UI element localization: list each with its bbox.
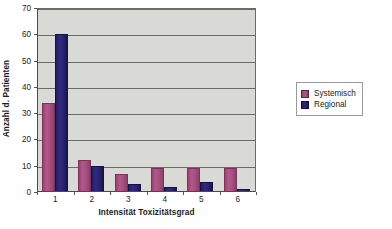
- legend-label: Regional: [314, 100, 346, 109]
- plot-area: [37, 8, 256, 192]
- bar-systemisch-3: [115, 174, 128, 192]
- x-tick-label: 1: [37, 195, 74, 208]
- y-axis-title: Anzahl d. Patienten: [0, 0, 14, 196]
- y-tick-mark: [34, 8, 37, 9]
- y-axis-tick-labels: 010203040506070: [14, 8, 34, 192]
- y-tick-label: 70: [22, 4, 31, 13]
- y-tick-mark: [34, 113, 37, 114]
- bar-group-3: [110, 9, 146, 192]
- y-tick-label: 40: [22, 82, 31, 91]
- y-axis-title-text: Anzahl d. Patienten: [3, 59, 12, 136]
- x-tick-label: 6: [220, 195, 257, 208]
- bar-systemisch-4: [151, 168, 164, 192]
- y-tick-label: 0: [26, 188, 31, 197]
- y-tick-label: 60: [22, 30, 31, 39]
- y-tick-mark: [34, 61, 37, 62]
- bars-layer: [37, 9, 255, 192]
- y-axis-line: [37, 9, 38, 192]
- legend: SystemischRegional: [296, 82, 363, 116]
- x-tick-label: 4: [147, 195, 184, 208]
- bar-chart: Anzahl d. Patienten 010203040506070 1234…: [0, 0, 392, 229]
- bar-group-4: [146, 9, 182, 192]
- legend-label: Systemisch: [314, 89, 356, 98]
- bar-systemisch-1: [42, 103, 55, 192]
- x-tick-label: 2: [74, 195, 111, 208]
- y-tick-label: 50: [22, 56, 31, 65]
- x-tick-label: 5: [183, 195, 220, 208]
- y-tick-mark: [34, 192, 37, 193]
- bar-group-5: [182, 9, 218, 192]
- legend-item-regional: Regional: [301, 100, 356, 109]
- y-tick-mark: [34, 87, 37, 88]
- bar-systemisch-6: [224, 168, 237, 192]
- y-tick-label: 10: [22, 161, 31, 170]
- bar-systemisch-2: [78, 160, 91, 192]
- y-tick-label: 20: [22, 135, 31, 144]
- bar-regional-2: [91, 166, 104, 192]
- x-axis-title: Intensität Toxizitätsgrad: [37, 208, 256, 217]
- x-tick-mark: [256, 192, 257, 195]
- y-tick-mark: [34, 139, 37, 140]
- bar-group-2: [73, 9, 109, 192]
- bar-group-6: [219, 9, 255, 192]
- legend-item-systemisch: Systemisch: [301, 89, 356, 98]
- bar-regional-1: [55, 34, 68, 192]
- plot-inner: [37, 9, 255, 192]
- bar-group-1: [37, 9, 73, 192]
- legend-swatch-icon: [301, 101, 309, 109]
- x-axis-tick-labels: 123456: [37, 195, 256, 208]
- x-tick-label: 3: [110, 195, 147, 208]
- legend-swatch-icon: [301, 90, 309, 98]
- bar-systemisch-5: [187, 168, 200, 192]
- y-tick-label: 30: [22, 109, 31, 118]
- y-tick-mark: [34, 34, 37, 35]
- y-tick-mark: [34, 166, 37, 167]
